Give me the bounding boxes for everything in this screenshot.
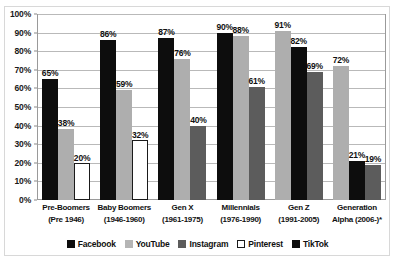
x-axis-category-line1: Millennials — [222, 203, 260, 212]
legend-item-pinterest[interactable]: Pinterest — [237, 239, 283, 249]
legend-label: Pinterest — [248, 239, 283, 249]
legend-label: YouTube — [136, 239, 170, 249]
y-axis-tick-label: 70% — [15, 65, 31, 75]
bar-youtube[interactable]: 38% — [58, 129, 74, 200]
bar-group: 87%76%40% — [153, 14, 211, 200]
bar-youtube[interactable]: 91% — [275, 31, 291, 200]
x-axis-category-line2: (Pre 1946) — [37, 214, 95, 226]
bar-instagram[interactable]: 40% — [190, 126, 206, 200]
y-axis-tick-label: 0% — [19, 195, 31, 205]
bar-facebook[interactable]: 21% — [349, 161, 365, 200]
bar-value-label: 61% — [248, 76, 264, 86]
y-axis-tick-label: 90% — [15, 28, 31, 38]
bar-instagram[interactable]: 61% — [249, 87, 265, 200]
x-axis-category-line2: (1961-1975) — [153, 214, 211, 226]
bar-facebook[interactable]: 86% — [100, 40, 116, 200]
x-axis-category-line1: Generation — [337, 203, 377, 212]
x-axis-category-label: Pre-Boomers(Pre 1946) — [37, 202, 95, 232]
bar-pinterest[interactable]: 32% — [132, 140, 148, 200]
bar-value-label: 69% — [307, 61, 323, 71]
bar-value-label: 87% — [158, 27, 174, 37]
bar-group: 65%38%20% — [37, 14, 95, 200]
legend-item-instagram[interactable]: Instagram — [178, 239, 228, 249]
bar-value-label: 19% — [365, 154, 381, 164]
bar-group: 91%82%69% — [270, 14, 328, 200]
legend-swatch-instagram-icon — [178, 240, 186, 248]
bar-facebook[interactable]: 87% — [158, 38, 174, 200]
bar-value-label: 88% — [232, 25, 248, 35]
x-axis-category-line2: Alpha (2006-)* — [328, 214, 386, 226]
bar-value-label: 21% — [349, 150, 365, 160]
legend-swatch-facebook-icon — [67, 240, 75, 248]
bar-group: 86%59%32% — [95, 14, 153, 200]
bar-facebook[interactable]: 65% — [42, 79, 58, 200]
legend-item-youtube[interactable]: YouTube — [125, 239, 170, 249]
bar-instagram[interactable]: 19% — [365, 165, 381, 200]
y-axis-tick-label: 100% — [10, 9, 31, 19]
x-axis-category-line2: (1946-1960) — [95, 214, 153, 226]
x-axis-category-line1: Gen X — [171, 203, 193, 212]
x-axis-category-line1: Baby Boomers — [98, 203, 151, 212]
x-axis-category-line2: (1976-1990) — [212, 214, 270, 226]
x-axis-category-label: GenerationAlpha (2006-)* — [328, 202, 386, 232]
bar-groups: 65%38%20%86%59%32%87%76%40%90%88%61%91%8… — [37, 14, 386, 200]
legend-swatch-tiktok-icon — [292, 240, 300, 248]
bar-value-label: 86% — [100, 29, 116, 39]
bar-value-label: 90% — [216, 22, 232, 32]
x-axis-category-line1: Pre-Boomers — [42, 203, 90, 212]
y-axis-tick-label: 50% — [15, 102, 31, 112]
legend-label: Facebook — [78, 239, 116, 249]
x-axis-category-label: Millennials(1976-1990) — [212, 202, 270, 232]
bar-value-label: 72% — [333, 55, 349, 65]
x-axis-category-label: Baby Boomers(1946-1960) — [95, 202, 153, 232]
y-axis-tick-label: 30% — [15, 139, 31, 149]
bar-pinterest[interactable]: 20% — [74, 163, 90, 200]
legend-swatch-pinterest-icon — [237, 240, 245, 248]
bar-value-label: 76% — [174, 48, 190, 58]
bar-value-label: 59% — [116, 79, 132, 89]
y-axis-tick-label: 80% — [15, 46, 31, 56]
legend-label: TikTok — [303, 239, 328, 249]
y-axis-tick-label: 20% — [15, 158, 31, 168]
bar-facebook[interactable]: 90% — [217, 33, 233, 200]
bar-instagram[interactable]: 69% — [307, 72, 323, 200]
bar-facebook[interactable]: 82% — [291, 47, 307, 200]
y-axis-tick-label: 40% — [15, 121, 31, 131]
bar-group: 72%21%19% — [328, 14, 386, 200]
chart-root: 100%90%80%70%60%50%40%30%20%10%0% 65%38%… — [0, 0, 395, 266]
x-axis-category-line2: (1991-2005) — [270, 214, 328, 226]
bar-youtube[interactable]: 59% — [116, 90, 132, 200]
bar-value-label: 65% — [42, 68, 58, 78]
legend-swatch-youtube-icon — [125, 240, 133, 248]
x-axis-category-label: Gen Z(1991-2005) — [270, 202, 328, 232]
bar-value-label: 82% — [291, 36, 307, 46]
bar-value-label: 40% — [190, 115, 206, 125]
bar-youtube[interactable]: 76% — [174, 59, 190, 200]
bar-value-label: 32% — [132, 130, 148, 140]
bar-value-label: 38% — [58, 118, 74, 128]
x-axis-category-label: Gen X(1961-1975) — [153, 202, 211, 232]
x-axis-category-line1: Gen Z — [288, 203, 309, 212]
y-axis-tick-label: 60% — [15, 83, 31, 93]
bar-youtube[interactable]: 88% — [233, 36, 249, 200]
y-axis: 100%90%80%70%60%50%40%30%20%10%0% — [0, 14, 34, 200]
x-axis: Pre-Boomers(Pre 1946)Baby Boomers(1946-1… — [37, 202, 386, 232]
legend-item-tiktok[interactable]: TikTok — [292, 239, 328, 249]
y-axis-tick-label: 10% — [15, 176, 31, 186]
bar-value-label: 20% — [74, 153, 90, 163]
chart-legend: FacebookYouTubeInstagramPinterestTikTok — [0, 236, 395, 252]
plot-area-wrapper: 65%38%20%86%59%32%87%76%40%90%88%61%91%8… — [37, 14, 386, 200]
legend-item-facebook[interactable]: Facebook — [67, 239, 116, 249]
bar-group: 90%88%61% — [212, 14, 270, 200]
bar-value-label: 91% — [275, 20, 291, 30]
bar-youtube[interactable]: 72% — [333, 66, 349, 200]
legend-label: Instagram — [189, 239, 228, 249]
